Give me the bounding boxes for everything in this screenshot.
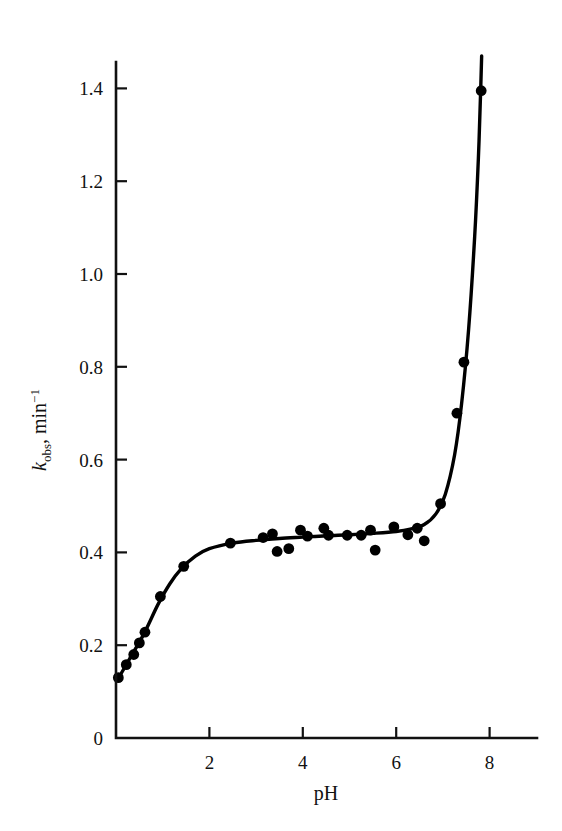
data-point <box>134 637 145 648</box>
data-point <box>419 535 430 546</box>
y-axis-separator: , min <box>28 403 50 444</box>
axes-layer <box>116 62 537 738</box>
x-axis-title: pH <box>314 782 338 805</box>
data-point <box>140 627 151 638</box>
y-axis-title: kobs, min−1 <box>27 389 54 471</box>
x-tick-label: 4 <box>298 752 308 773</box>
data-point <box>121 659 132 670</box>
data-point <box>452 408 463 419</box>
x-tick-label: 6 <box>391 752 401 773</box>
data-point <box>128 649 139 660</box>
data-point <box>412 523 423 534</box>
data-point <box>155 591 166 602</box>
y-tick-label: 0.8 <box>79 357 103 378</box>
figure-container: 00.20.40.60.81.01.21.42468 kobs, min−1 p… <box>0 0 562 831</box>
data-point <box>225 538 236 549</box>
x-tick-label: 2 <box>205 752 215 773</box>
y-axis-subscript: obs <box>39 444 54 462</box>
y-tick-label: 1.2 <box>79 171 103 192</box>
y-tick-label: 0 <box>94 728 104 749</box>
x-tick-label: 8 <box>485 752 495 773</box>
data-point <box>323 530 334 541</box>
y-tick-label: 0.6 <box>79 450 103 471</box>
data-point <box>283 543 294 554</box>
data-point <box>370 545 381 556</box>
data-point <box>365 525 376 536</box>
svg-text:kobs, min−1: kobs, min−1 <box>27 389 54 471</box>
y-tick-label: 0.2 <box>79 635 103 656</box>
data-point <box>435 498 446 509</box>
fitted-curve-layer <box>117 56 481 680</box>
fitted-curve <box>117 56 481 680</box>
data-point <box>178 561 189 572</box>
data-point <box>113 672 124 683</box>
data-point <box>267 528 278 539</box>
y-tick-label: 1.4 <box>79 78 103 99</box>
data-point <box>388 521 399 532</box>
tick-labels-layer: 00.20.40.60.81.01.21.42468 <box>79 78 494 773</box>
data-point <box>258 532 269 543</box>
data-point <box>476 85 487 96</box>
data-point <box>302 531 313 542</box>
data-point <box>342 530 353 541</box>
data-point <box>272 546 283 557</box>
data-points-layer <box>113 85 487 683</box>
ph-rate-profile-chart: 00.20.40.60.81.01.21.42468 kobs, min−1 p… <box>0 0 562 831</box>
y-axis-superscript: −1 <box>27 389 42 403</box>
data-point <box>459 357 470 368</box>
y-tick-label: 1.0 <box>79 264 103 285</box>
y-tick-label: 0.4 <box>79 542 103 563</box>
data-point <box>402 529 413 540</box>
data-point <box>356 530 367 541</box>
